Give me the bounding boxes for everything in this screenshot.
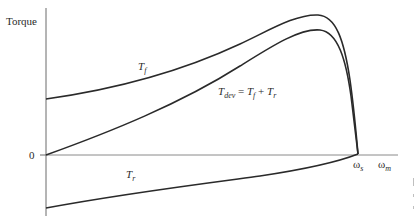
cropped-fragment-mark bbox=[413, 178, 414, 186]
tdev-equation-label: Tdev = Tf + Tr bbox=[218, 86, 276, 100]
tdev-subscript: dev bbox=[224, 91, 235, 100]
curve-tf bbox=[46, 15, 358, 154]
curve-tr bbox=[46, 154, 358, 208]
curve-tdev bbox=[46, 30, 358, 155]
omega-m-label: ωm bbox=[378, 159, 391, 173]
omega-s-subscript: s bbox=[360, 164, 363, 173]
y-axis-label: Torque bbox=[6, 16, 37, 27]
equals-sign: = bbox=[235, 85, 247, 97]
tf-subscript: f bbox=[144, 66, 146, 75]
torque-speed-diagram bbox=[0, 0, 416, 224]
cropped-fragment-mark bbox=[413, 206, 414, 209]
tr-term-subscript: r bbox=[273, 91, 276, 100]
tr-subscript: r bbox=[132, 174, 135, 183]
plus-sign: + bbox=[255, 85, 267, 97]
tr-curve-label: Tr bbox=[126, 169, 135, 183]
omega-m-subscript: m bbox=[385, 164, 391, 173]
tf-curve-label: Tf bbox=[138, 61, 146, 75]
cropped-fragment-mark bbox=[413, 194, 414, 197]
omega-s-label: ωs bbox=[353, 159, 363, 173]
zero-tick-label: 0 bbox=[29, 150, 35, 161]
